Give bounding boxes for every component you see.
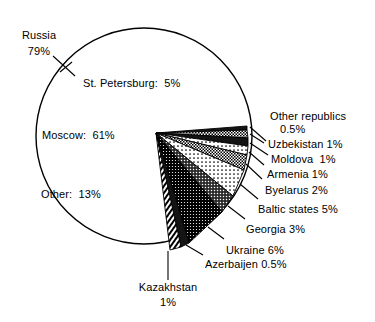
label-moldova: Moldova 1% [271,153,336,166]
label-st-petersburg: St. Petersburg: 5% [83,77,180,90]
label-kazakhstan-value: 1% [120,296,216,309]
label-kazakhstan-name: Kazakhstan [120,281,216,294]
leader-line-ukraine [208,227,224,239]
leader-line-byelarus [246,164,262,179]
leader-line-azerbaijen [186,245,203,255]
leader-line-georgia [228,206,245,219]
label-other-russia: Other: 13% [41,188,101,201]
label-russia-name: Russia [6,29,72,42]
label-russia-value: 79% [6,45,72,58]
label-baltic-states: Baltic states 5% [258,203,338,216]
leader-line-moldova [250,143,268,155]
label-other-republics-value: 0.5% [280,123,305,136]
leader-line-armenia [249,152,264,165]
label-azerbaijen: Azerbaijen 0.5% [205,258,287,271]
label-byelarus: Byelarus 2% [265,184,328,197]
pie-chart-figure: Russia 79% St. Petersburg: 5% Moscow: 61… [0,0,375,322]
leader-line-baltic [240,184,258,199]
label-georgia: Georgia 3% [246,223,305,236]
label-other-republics-name: Other republics [270,110,346,123]
label-moscow: Moscow: 61% [42,129,115,142]
exploded-wedge-group [156,126,248,250]
label-ukraine: Ukraine 6% [226,244,284,257]
label-armenia: Armenia 1% [267,168,328,181]
label-uzbekistan: Uzbekistan 1% [268,138,343,151]
